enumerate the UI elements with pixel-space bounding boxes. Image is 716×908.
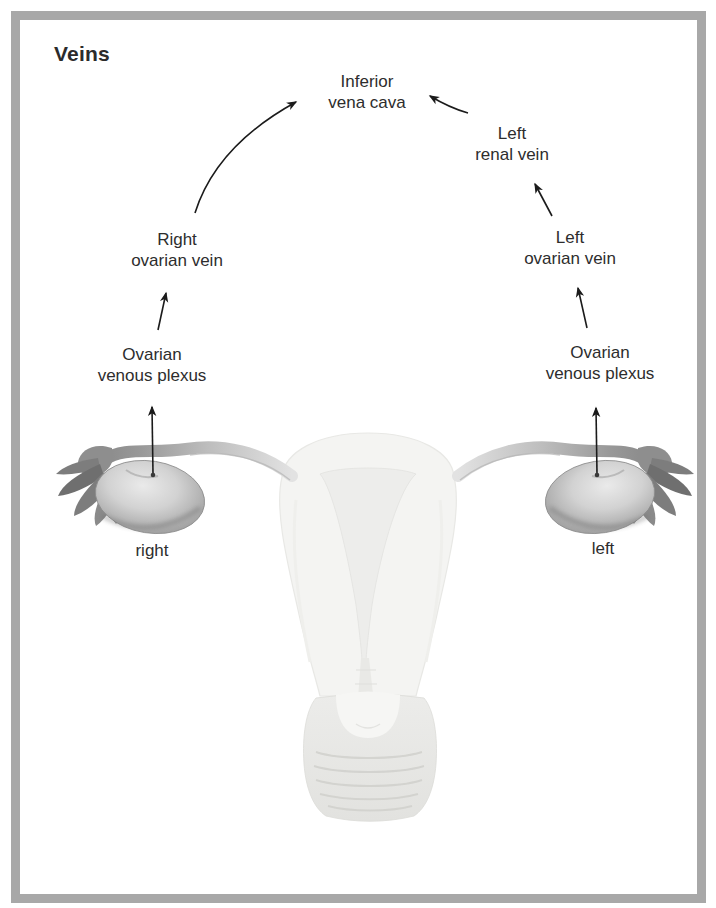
label-left-ovarian-venous-plexus: Ovarian venous plexus [546,342,655,384]
right-ovary-pointer-dot [151,473,156,478]
left-ovary-illustration [458,446,694,541]
label-left-side: left [592,539,615,559]
label-left-renal-vein: Left renal vein [475,123,549,165]
arrow-right-ovary-to-plexus [152,407,153,474]
left-ovary-pointer-dot [595,473,600,478]
figure-illustration [0,0,716,908]
right-ovary-illustration [56,446,292,541]
arrow-right-ovarian-vein-to-inferior-vena-cava [195,102,296,213]
figure-page: Veins Inferior vena cava Left renal vein… [0,0,716,908]
arrow-left-ovarian-vein-to-left-renal-vein [535,184,552,216]
arrow-left-renal-vein-to-inferior-vena-cava [430,96,468,113]
uterus-illustration [280,433,457,821]
label-inferior-vena-cava: Inferior vena cava [328,71,406,113]
arrow-left-ovary-to-plexus [596,408,597,474]
label-right-ovarian-vein: Right ovarian vein [131,229,223,271]
label-left-ovarian-vein: Left ovarian vein [524,227,616,269]
arrow-left-plexus-to-left-ovarian-vein [578,288,587,328]
label-right-side: right [135,541,168,561]
figure-title: Veins [54,42,110,66]
label-right-ovarian-venous-plexus: Ovarian venous plexus [98,344,207,386]
arrow-right-plexus-to-right-ovarian-vein [158,293,166,330]
